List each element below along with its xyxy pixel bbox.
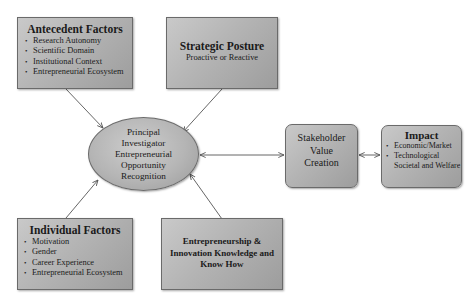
list-item: Economic/Market <box>385 141 461 151</box>
list-item: Gender <box>23 247 132 257</box>
list-item: Motivation <box>23 237 132 247</box>
center-label-line: Entrepreneurial <box>115 149 172 160</box>
list-item: Entrepreneurial Ecosystem <box>24 67 132 77</box>
antecedent-factors-title: Antecedent Factors <box>18 23 132 35</box>
stakeholder-label-line: Creation <box>286 157 357 170</box>
individual-factors-list: Motivation Gender Career Experience Entr… <box>23 237 132 279</box>
list-item: Career Experience <box>23 258 132 268</box>
impact-list: Economic/Market Technological Societal a… <box>385 141 461 171</box>
center-label: Principal Investigator Entrepreneurial O… <box>115 127 172 182</box>
entrepreneurship-knowledge-title: Entrepreneurship & Innovation Knowledge … <box>162 236 282 271</box>
list-item: Entrepreneurial Ecosystem <box>23 268 132 278</box>
stakeholder-value-creation-box: Stakeholder Value Creation <box>285 124 358 188</box>
arrow-antecedent-to-center <box>66 89 103 128</box>
impact-title: Impact <box>382 129 461 141</box>
center-label-line: Recognition <box>115 171 172 182</box>
antecedent-factors-list: Research Autonomy Scientific Domain Inst… <box>24 36 132 78</box>
arrow-knowhow-to-center <box>190 174 222 219</box>
arrow-individual-to-center <box>66 180 98 218</box>
individual-factors-title: Individual Factors <box>18 224 132 236</box>
antecedent-factors-box: Antecedent Factors Research Autonomy Sci… <box>17 17 133 89</box>
center-label-line: Principal <box>115 127 172 138</box>
strategic-posture-subtitle: Proactive or Reactive <box>167 53 277 62</box>
principal-investigator-ellipse: Principal Investigator Entrepreneurial O… <box>88 117 199 191</box>
knowhow-title-line: Entrepreneurship & <box>162 236 282 248</box>
stakeholder-label-line: Stakeholder <box>286 132 357 145</box>
entrepreneurship-knowledge-box: Entrepreneurship & Innovation Knowledge … <box>161 218 283 290</box>
list-item: Scientific Domain <box>24 46 132 56</box>
individual-factors-box: Individual Factors Motivation Gender Car… <box>17 218 133 290</box>
list-item: Institutional Context <box>24 57 132 67</box>
list-item: Technological Societal and Welfare <box>385 151 461 171</box>
knowhow-title-line: Know How <box>162 259 282 271</box>
strategic-posture-box: Strategic Posture Proactive or Reactive <box>166 17 278 89</box>
knowhow-title-line: Innovation Knowledge and <box>162 248 282 260</box>
stakeholder-label: Stakeholder Value Creation <box>286 132 357 170</box>
impact-box: Impact Economic/Market Technological Soc… <box>381 125 462 188</box>
list-item: Research Autonomy <box>24 36 132 46</box>
arrow-strategic-to-center <box>183 89 222 132</box>
center-label-line: Opportunity <box>115 160 172 171</box>
strategic-posture-title: Strategic Posture <box>167 40 277 52</box>
center-label-line: Investigator <box>115 138 172 149</box>
stakeholder-label-line: Value <box>286 145 357 158</box>
